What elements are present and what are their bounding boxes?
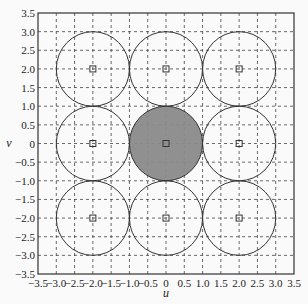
y-tick-label: −1.5 xyxy=(15,193,35,205)
y-tick-labels: 3.53.02.52.01.51.00.50−0.5−1.0−1.5−2.0−2… xyxy=(15,7,35,280)
y-tick-label: 2.5 xyxy=(21,44,35,56)
x-tick-label: 0.5 xyxy=(177,277,191,289)
x-tick-label: 1.5 xyxy=(214,277,228,289)
x-tick-label: 2.5 xyxy=(251,277,265,289)
y-tick-label: −1.0 xyxy=(15,175,35,187)
y-tick-label: 3.5 xyxy=(21,7,35,19)
chart: −3.5−3.0−2.5−2.0−1.5−1.0−0.500.51.01.52.… xyxy=(0,0,308,304)
y-tick-label: 0.5 xyxy=(21,119,35,131)
y-tick-label: 2.0 xyxy=(21,63,35,75)
x-tick-label: −0.5 xyxy=(138,277,158,289)
x-tick-label: 3.0 xyxy=(269,277,283,289)
y-tick-label: −0.5 xyxy=(15,156,35,168)
y-tick-label: −2.0 xyxy=(15,212,35,224)
x-tick-label: 3.5 xyxy=(287,277,301,289)
y-tick-label: 1.5 xyxy=(21,82,35,94)
x-axis-label: u xyxy=(163,286,169,300)
y-tick-label: −3.0 xyxy=(15,249,35,261)
y-tick-label: 1.0 xyxy=(21,100,35,112)
filled-circle xyxy=(129,106,202,181)
y-tick-label: −2.5 xyxy=(15,231,35,243)
x-tick-label: 2.0 xyxy=(232,277,246,289)
x-tick-label: 1.0 xyxy=(196,277,210,289)
y-tick-label: 3.0 xyxy=(21,26,35,38)
y-tick-label: 0 xyxy=(30,138,36,150)
y-tick-label: −3.5 xyxy=(15,268,35,280)
y-axis-label: v xyxy=(6,136,12,150)
